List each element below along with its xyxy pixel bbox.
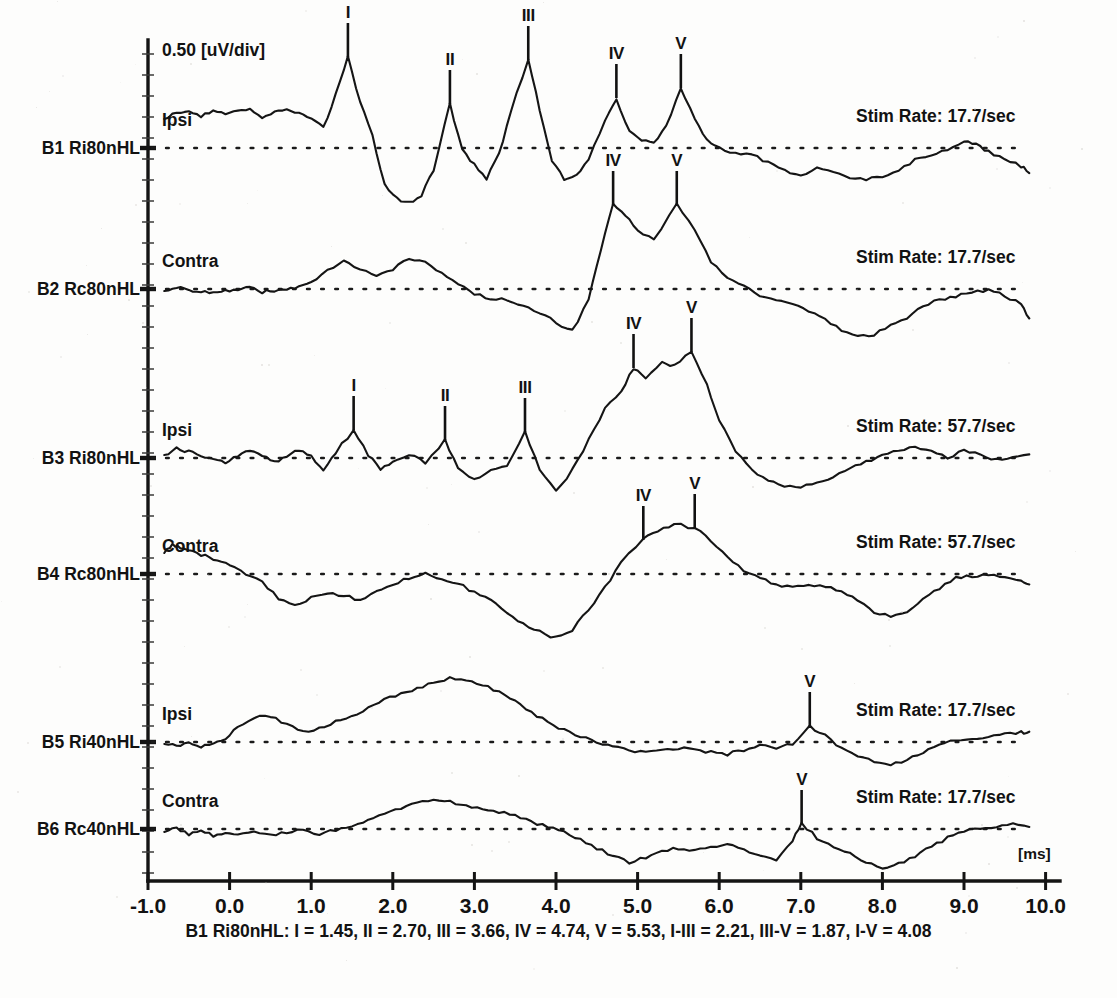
x-axis-tick-label: 8.0 [868, 894, 897, 917]
channel-label-b1: Ipsi [162, 110, 192, 130]
x-axis-tick-label: -1.0 [130, 894, 166, 917]
waveform-trace-b5 [164, 677, 1029, 765]
peak-label-i: I [346, 3, 350, 22]
stim-rate-label-b3: Stim Rate: 57.7/sec [856, 416, 1016, 436]
stim-rate-label-b6: Stim Rate: 17.7/sec [856, 787, 1016, 807]
stim-rate-label-b2: Stim Rate: 17.7/sec [856, 247, 1016, 267]
axes-layer [140, 40, 1060, 890]
peak-label-ii: II [446, 50, 455, 69]
stim-rate-label-b1: Stim Rate: 17.7/sec [856, 106, 1016, 126]
peak-label-v: V [671, 151, 683, 170]
peak-label-v: V [675, 34, 687, 53]
abr-waveform-chart: IIIIIIIVVIVVIIIIIIIVVIVVVV -1.00.01.02.0… [0, 0, 1117, 998]
stim-rate-label-b5: Stim Rate: 17.7/sec [856, 700, 1016, 720]
peak-label-iv: IV [626, 314, 642, 333]
peak-label-ii: II [441, 386, 450, 405]
x-axis-tick-label: 4.0 [541, 894, 570, 917]
channel-label-b3: Ipsi [162, 420, 192, 440]
x-axis-unit-label: [ms] [1018, 845, 1051, 862]
channel-label-b5: Ipsi [162, 704, 192, 724]
x-axis-tick-label: 6.0 [705, 894, 734, 917]
peak-label-iii: III [522, 6, 535, 25]
trace-label-b4: B4 Rc80nHL [37, 564, 140, 584]
peak-label-iv: IV [605, 151, 621, 170]
trace-label-b3: B3 Ri80nHL [42, 448, 141, 468]
amplitude-scale-label: 0.50 [uV/div] [162, 40, 265, 60]
trace-label-b1: B1 Ri80nHL [42, 138, 141, 158]
trace-label-b2: B2 Rc80nHL [37, 279, 140, 299]
peak-label-v: V [796, 770, 808, 789]
x-axis-tick-label: 0.0 [215, 894, 244, 917]
footnote-text [0, 984, 1117, 998]
peak-label-i: I [351, 376, 355, 395]
waveform-trace-b1 [164, 56, 1029, 202]
peak-label-v: V [689, 474, 701, 493]
trace-label-b5: B5 Ri40nHL [42, 732, 141, 752]
peak-label-iv: IV [609, 44, 625, 63]
chart-labels-layer: -1.00.01.02.03.04.05.06.07.08.09.010.0[m… [37, 40, 1066, 917]
peak-label-v: V [804, 672, 816, 691]
x-axis-tick-label: 1.0 [297, 894, 326, 917]
channel-label-b4: Contra [162, 536, 219, 556]
peak-markers-layer: IIIIIIIVVIVVIIIIIIIVVIVVVV [346, 3, 817, 824]
stim-rate-label-b4: Stim Rate: 57.7/sec [856, 532, 1016, 552]
x-axis-tick-label: 7.0 [786, 894, 815, 917]
waveform-trace-b6 [164, 800, 1029, 869]
x-axis-tick-label: 2.0 [378, 894, 407, 917]
channel-label-b2: Contra [162, 251, 219, 271]
channel-label-b6: Contra [162, 791, 219, 811]
measurement-caption: B1 Ri80nHL: I = 1.45, II = 2.70, III = 3… [0, 921, 1117, 942]
trace-label-b6: B6 Rc40nHL [37, 819, 140, 839]
waveform-trace-b2 [164, 204, 1029, 337]
abr-report-page: IIIIIIIVVIVVIIIIIIIVVIVVVV -1.00.01.02.0… [0, 0, 1117, 998]
x-axis-tick-label: 9.0 [949, 894, 978, 917]
peak-label-iv: IV [636, 486, 652, 505]
x-axis-tick-label: 5.0 [623, 894, 652, 917]
peak-label-iii: III [518, 378, 531, 397]
peak-label-v: V [686, 298, 698, 317]
x-axis-tick-label: 10.0 [1025, 894, 1066, 917]
x-axis-tick-label: 3.0 [460, 894, 489, 917]
traces-layer [164, 56, 1029, 869]
